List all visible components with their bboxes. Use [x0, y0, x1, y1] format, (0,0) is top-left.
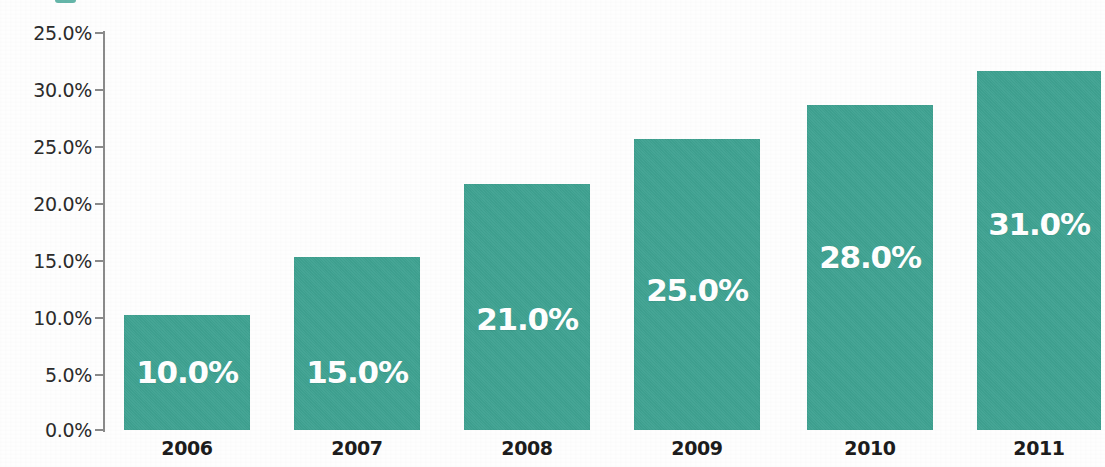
bar-group-2007[interactable]: 15.0% 2007	[294, 0, 420, 467]
x-tick-label-2010: 2010	[807, 437, 933, 459]
bar-value-label-2008: 21.0%	[464, 301, 590, 337]
bar-group-2011[interactable]: 31.0% 2011	[977, 0, 1101, 467]
bar-2008[interactable]: 21.0%	[464, 184, 590, 430]
bar-group-2006[interactable]: 10.0% 2006	[124, 0, 250, 467]
bar-2011[interactable]: 31.0%	[977, 71, 1101, 430]
x-tick-label-2008: 2008	[464, 437, 590, 459]
bar-group-2010[interactable]: 28.0% 2010	[807, 0, 933, 467]
bar-value-label-2006: 10.0%	[124, 354, 250, 390]
x-tick-label-2006: 2006	[124, 437, 250, 459]
x-tick-label-2007: 2007	[294, 437, 420, 459]
bar-value-label-2009: 25.0%	[634, 272, 760, 308]
bar-2010[interactable]: 28.0%	[807, 105, 933, 430]
plot-area: 10.0% 2006 15.0% 2007 21.0% 2008 25.0% 2…	[0, 0, 1105, 467]
bar-2009[interactable]: 25.0%	[634, 139, 760, 430]
bar-group-2009[interactable]: 25.0% 2009	[634, 0, 760, 467]
bar-group-2008[interactable]: 21.0% 2008	[464, 0, 590, 467]
bar-value-label-2011: 31.0%	[977, 206, 1101, 242]
x-tick-label-2009: 2009	[634, 437, 760, 459]
x-tick-label-2011: 2011	[977, 437, 1101, 459]
bar-chart: 25.0% 30.0% 25.0% 20.0% 15.0% 10.0% 5.0%…	[0, 0, 1105, 467]
bar-2006[interactable]: 10.0%	[124, 315, 250, 430]
bar-value-label-2010: 28.0%	[807, 239, 933, 275]
bar-value-label-2007: 15.0%	[294, 354, 420, 390]
bar-2007[interactable]: 15.0%	[294, 257, 420, 430]
